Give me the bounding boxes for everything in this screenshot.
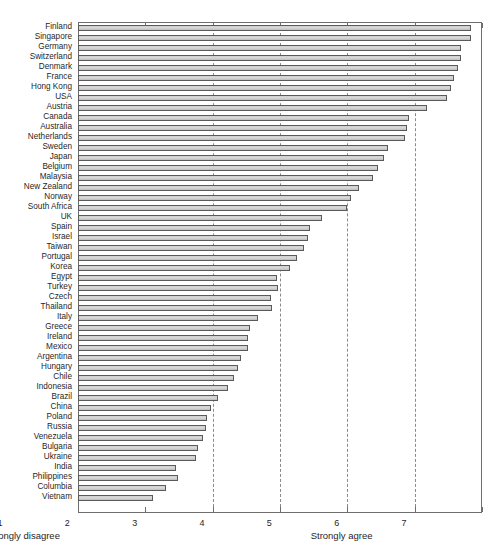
bar-argentina xyxy=(78,355,241,361)
bar-brazil xyxy=(78,395,218,401)
category-label-canada: Canada xyxy=(0,112,72,121)
category-label-czech: Czech xyxy=(0,292,72,301)
bar-greece xyxy=(78,325,250,331)
category-label-malaysia: Malaysia xyxy=(0,172,72,181)
category-label-russia: Russia xyxy=(0,422,72,431)
bar-vietnam xyxy=(78,495,153,501)
category-label-hong-kong: Hong Kong xyxy=(0,82,72,91)
category-label-china: China xyxy=(0,402,72,411)
bar-spain xyxy=(78,225,310,231)
category-label-greece: Greece xyxy=(0,322,72,331)
category-label-hungary: Hungary xyxy=(0,362,72,371)
bar-singapore xyxy=(78,35,471,41)
bar-hong-kong xyxy=(78,85,451,91)
category-label-finland: Finland xyxy=(0,22,72,31)
bar-portugal xyxy=(78,255,297,261)
category-label-korea: Korea xyxy=(0,262,72,271)
category-label-italy: Italy xyxy=(0,312,72,321)
category-label-philippines: Philippines xyxy=(0,472,72,481)
category-label-south-africa: South Africa xyxy=(0,202,72,211)
bar-turkey xyxy=(78,285,278,291)
bar-columbia xyxy=(78,485,166,491)
bar-uk xyxy=(78,215,322,221)
bar-italy xyxy=(78,315,258,321)
bar-mexico xyxy=(78,345,248,351)
bar-belgium xyxy=(78,165,378,171)
bar-ireland xyxy=(78,335,248,341)
x-tick-label-1: 1 xyxy=(0,518,20,529)
bar-poland xyxy=(78,415,207,421)
category-label-argentina: Argentina xyxy=(0,352,72,361)
category-label-taiwan: Taiwan xyxy=(0,242,72,251)
category-label-belgium: Belgium xyxy=(0,162,72,171)
bar-thailand xyxy=(78,305,272,311)
category-label-india: India xyxy=(0,462,72,471)
category-label-new-zealand: New Zealand xyxy=(0,182,72,191)
bar-japan xyxy=(78,155,384,161)
category-label-vietnam: Vietnam xyxy=(0,492,72,501)
axis-anchor-low-label: Strongly disagree xyxy=(0,530,60,542)
category-label-norway: Norway xyxy=(0,192,72,201)
bar-series xyxy=(78,22,482,513)
category-label-bulgaria: Bulgaria xyxy=(0,442,72,451)
plot-area xyxy=(78,22,482,513)
category-label-germany: Germany xyxy=(0,42,72,51)
bar-china xyxy=(78,405,211,411)
category-label-brazil: Brazil xyxy=(0,392,72,401)
bar-russia xyxy=(78,425,206,431)
category-label-austria: Austria xyxy=(0,102,72,111)
bar-sweden xyxy=(78,145,388,151)
category-label-ireland: Ireland xyxy=(0,332,72,341)
value-axis: 1234567 Strongly disagree Strongly agree xyxy=(0,513,504,552)
category-label-portugal: Portugal xyxy=(0,252,72,261)
category-label-australia: Australia xyxy=(0,122,72,131)
bar-new-zealand xyxy=(78,185,359,191)
tick-bottom-7 xyxy=(482,507,483,512)
x-tick-label-2: 2 xyxy=(47,518,87,529)
bar-malaysia xyxy=(78,175,373,181)
category-label-turkey: Turkey xyxy=(0,282,72,291)
category-label-israel: Israel xyxy=(0,232,72,241)
category-label-usa: USA xyxy=(0,92,72,101)
category-label-venezuela: Venezuela xyxy=(0,432,72,441)
bar-finland xyxy=(78,25,471,31)
bar-philippines xyxy=(78,475,178,481)
bar-venezuela xyxy=(78,435,203,441)
category-label-sweden: Sweden xyxy=(0,142,72,151)
category-label-denmark: Denmark xyxy=(0,62,72,71)
bar-hungary xyxy=(78,365,238,371)
category-label-indonesia: Indonesia xyxy=(0,382,72,391)
bar-korea xyxy=(78,265,290,271)
bar-norway xyxy=(78,195,351,201)
x-tick-label-6: 6 xyxy=(317,518,357,529)
category-label-spain: Spain xyxy=(0,222,72,231)
bar-australia xyxy=(78,125,407,131)
x-tick-label-7: 7 xyxy=(384,518,424,529)
bar-egypt xyxy=(78,275,277,281)
bar-canada xyxy=(78,115,409,121)
category-axis-labels: FinlandSingaporeGermanySwitzerlandDenmar… xyxy=(0,22,76,513)
bar-usa xyxy=(78,95,447,101)
bar-switzerland xyxy=(78,55,461,61)
category-label-egypt: Egypt xyxy=(0,272,72,281)
axis-anchor-high-label: Strongly agree xyxy=(311,530,373,542)
bar-denmark xyxy=(78,65,458,71)
bar-bulgaria xyxy=(78,445,198,451)
bar-india xyxy=(78,465,176,471)
category-label-chile: Chile xyxy=(0,372,72,381)
category-label-switzerland: Switzerland xyxy=(0,52,72,61)
x-tick-label-5: 5 xyxy=(249,518,289,529)
bar-czech xyxy=(78,295,271,301)
bar-ukraine xyxy=(78,455,196,461)
category-label-thailand: Thailand xyxy=(0,302,72,311)
tick-top-7 xyxy=(482,23,483,28)
bar-austria xyxy=(78,105,427,111)
bar-south-africa xyxy=(78,205,347,211)
bar-taiwan xyxy=(78,245,304,251)
bar-netherlands xyxy=(78,135,405,141)
category-label-france: France xyxy=(0,72,72,81)
category-label-columbia: Columbia xyxy=(0,482,72,491)
category-label-uk: UK xyxy=(0,212,72,221)
bar-indonesia xyxy=(78,385,228,391)
horizontal-bar-chart: FinlandSingaporeGermanySwitzerlandDenmar… xyxy=(0,0,504,552)
